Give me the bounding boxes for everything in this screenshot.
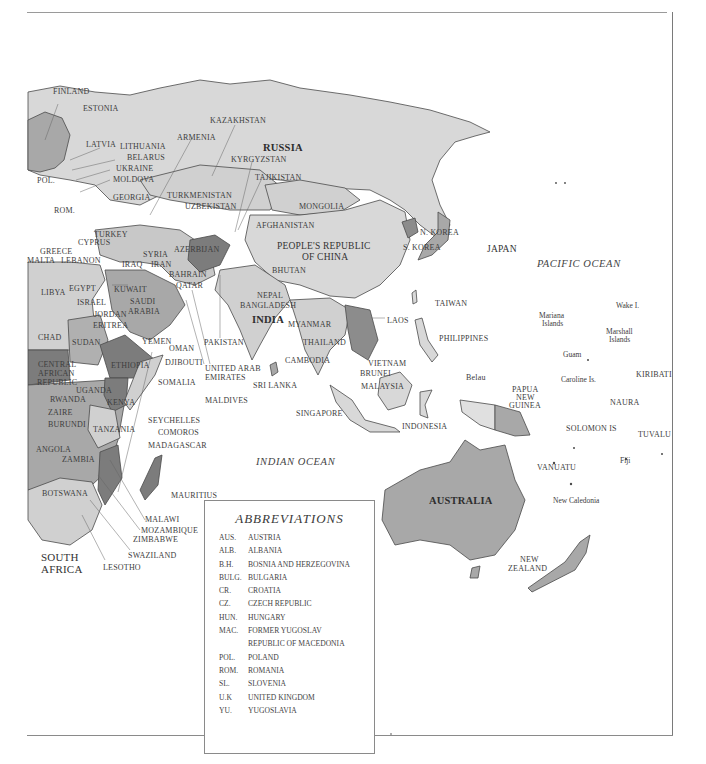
country-label-s-korea: S. KOREA <box>403 243 441 252</box>
country-label-swaziland: SWAZILAND <box>128 551 176 560</box>
legend-abbreviation: B.H. <box>219 558 248 571</box>
abbreviations-legend: ABBREVIATIONS AUS.AUSTRIAALB.ALBANIAB.H.… <box>204 500 375 754</box>
country-label-sri-lanka: SRI LANKA <box>253 381 297 390</box>
country-label-china-line1: PEOPLE'S REPUBLIC <box>277 241 371 252</box>
legend-abbreviation: POL. <box>219 651 248 664</box>
island-label-caroline: Caroline Is. <box>561 375 596 384</box>
legend-abbreviation: SL. <box>219 677 248 690</box>
country-label-nepal: NEPAL <box>257 291 283 300</box>
country-label-syria: SYRIA <box>143 250 168 259</box>
country-label-burundi: BURUNDI <box>48 420 86 429</box>
legend-country-name: YUGOSLAVIA <box>248 704 374 717</box>
country-label-png-3: GUINEA <box>509 401 541 410</box>
country-label-zambia: ZAMBIA <box>62 455 95 464</box>
legend-row: POL.POLAND <box>205 651 374 664</box>
vietnam-laos <box>345 305 378 360</box>
country-label-djibouti: DJIBOUTI <box>165 358 203 367</box>
country-label-cambodia: CAMBODIA <box>285 356 330 365</box>
country-label-india: INDIA <box>252 314 284 326</box>
country-label-thailand: THAILAND <box>303 338 346 347</box>
sulawesi <box>420 390 432 418</box>
country-label-libya: LIBYA <box>41 288 66 297</box>
country-label-belarus: BELARUS <box>127 153 165 162</box>
island-label-marshall-2: Islands <box>609 335 630 344</box>
country-label-mozambique: MOZAMBIQUE <box>141 526 198 535</box>
country-label-n-korea: N. KOREA <box>420 228 459 237</box>
legend-row: ROM.ROMANIA <box>205 664 374 677</box>
country-label-maldives: MALDIVES <box>205 396 248 405</box>
country-label-solomon: SOLOMON IS <box>566 424 617 433</box>
country-label-somalia: SOMALIA <box>158 378 196 387</box>
country-label-rom: ROM. <box>54 206 75 215</box>
country-label-kazakhstan: KAZAKHSTAN <box>210 116 266 125</box>
legend-abbreviation: HUN. <box>219 611 248 624</box>
country-label-malaysia: MALAYSIA <box>361 382 404 391</box>
legend-row: AUS.AUSTRIA <box>205 531 374 544</box>
country-label-kyrgyzstan: KYRGYZSTAN <box>231 155 287 164</box>
country-label-finland: FINLAND <box>53 87 90 96</box>
country-label-cyprus: CYPRUS <box>78 238 110 247</box>
country-label-singapore: SINGAPORE <box>296 409 343 418</box>
ocean-label-pacific: PACIFIC OCEAN <box>537 259 621 268</box>
country-label-botswana: BOTSWANA <box>42 489 88 498</box>
country-label-australia: AUSTRALIA <box>429 495 493 507</box>
country-label-estonia: ESTONIA <box>83 104 118 113</box>
country-label-ukraine: UKRAINE <box>116 164 153 173</box>
country-label-iraq: IRAQ <box>122 260 142 269</box>
country-label-kuwait: KUWAIT <box>114 285 147 294</box>
country-label-tanzania: TANZANIA <box>93 425 135 434</box>
country-label-tuvalu: TUVALU <box>638 430 671 439</box>
country-label-afghanistan: AFGHANISTAN <box>256 221 314 230</box>
country-label-brunei: BRUNEI <box>360 369 391 378</box>
country-label-car-2: AFRICAN <box>38 369 75 378</box>
country-label-azerbaijan: AZERBIJAN <box>174 245 219 254</box>
country-label-comoros: COMOROS <box>158 428 199 437</box>
legend-country-name: BOSNIA AND HERZEGOVINA <box>248 558 374 571</box>
country-label-israel: ISRAEL <box>77 298 106 307</box>
legend-abbreviation: U.K <box>219 691 248 704</box>
legend-country-name: SLOVENIA <box>248 677 374 690</box>
legend-row: MAC.FORMER YUGOSLAV <box>205 624 374 637</box>
legend-abbreviation: BULG. <box>219 571 248 584</box>
new-guinea-west <box>460 400 495 430</box>
country-label-china-line2: OF CHINA <box>302 252 348 263</box>
legend-abbreviation: MAC. <box>219 624 248 637</box>
country-label-lithuania: LITHUANIA <box>120 142 166 151</box>
legend-country-name: UNITED KINGDOM <box>248 691 374 704</box>
country-label-sudan: SUDAN <box>72 338 101 347</box>
country-label-vanuatu: VANUATU <box>537 463 576 472</box>
legend-abbreviation: YU. <box>219 704 248 717</box>
country-label-car-3: REPUBLIC <box>37 378 77 387</box>
legend-country-name: REPUBLIC OF MACEDONIA <box>248 637 374 650</box>
country-label-lebanon: LEBANON <box>61 256 101 265</box>
legend-row: BULG.BULGARIA <box>205 571 374 584</box>
country-label-south-africa-line1: SOUTH <box>41 552 79 563</box>
country-label-naura: NAURA <box>610 398 639 407</box>
country-label-uzbekistan: UZBEKISTAN <box>185 202 237 211</box>
legend-abbreviation: ROM. <box>219 664 248 677</box>
country-label-yemen: YEMEN <box>142 337 171 346</box>
country-label-jordan: JORDAN <box>94 310 127 319</box>
country-label-angola: ANGOLA <box>36 445 71 454</box>
country-label-pol: POL. <box>37 176 55 185</box>
country-label-qatar: QATAR <box>176 281 203 290</box>
country-label-turkmenistan: TURKMENISTAN <box>167 191 232 200</box>
country-label-chad: CHAD <box>38 333 61 342</box>
legend-row: SL.SLOVENIA <box>205 677 374 690</box>
country-label-malawi: MALAWI <box>145 515 179 524</box>
country-label-philippines: PHILIPPINES <box>439 334 488 343</box>
legend-row: REPUBLIC OF MACEDONIA <box>205 637 374 650</box>
country-label-bahrain: BAHRAIN <box>169 270 207 279</box>
country-label-lesotho: LESOTHO <box>103 563 141 572</box>
country-label-laos: LAOS <box>387 316 409 325</box>
country-label-myanmar: MYANMAR <box>288 320 331 329</box>
island-label-mariana-2: Islands <box>542 319 563 328</box>
country-label-eritrea: ERITREA <box>93 321 128 330</box>
legend-country-name: CZECH REPUBLIC <box>248 597 374 610</box>
legend-row: ALB.ALBANIA <box>205 544 374 557</box>
madagascar <box>140 455 162 500</box>
country-label-latvia: LATVIA <box>86 140 116 149</box>
country-label-pakistan: PAKISTAN <box>204 338 244 347</box>
legend-country-name: ALBANIA <box>248 544 374 557</box>
legend-abbreviation <box>219 637 248 650</box>
